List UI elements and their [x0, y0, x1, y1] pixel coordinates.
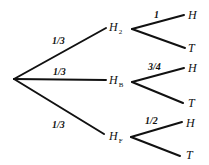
leaf-hb-h: H [187, 61, 198, 75]
edge-root-hb [14, 79, 106, 80]
prob-hf: 1/3 [52, 119, 65, 130]
node-hb: HB [108, 73, 124, 89]
leaf-hb-t: T [188, 96, 196, 110]
prob-hb-h: 3/4 [147, 61, 161, 72]
prob-hb: 1/3 [53, 66, 66, 77]
probability-tree: 1/3 1/3 1/3 H2 HB HF 1 3/4 1/2 H T H T H… [0, 0, 209, 165]
prob-hf-h: 1/2 [145, 115, 158, 126]
leaf-hf-t: T [186, 148, 194, 162]
prob-h2: 1/3 [52, 35, 65, 46]
leaf-hf-h: H [185, 116, 196, 130]
node-hf: HF [108, 129, 123, 145]
edge-h2-t [132, 29, 185, 48]
prob-h2-h: 1 [154, 9, 159, 20]
edge-hb-t [132, 82, 183, 103]
edge-hf-t [131, 137, 180, 156]
leaf-h2-t: T [188, 41, 196, 55]
node-h2: H2 [108, 20, 123, 36]
leaf-h2-h: H [187, 8, 198, 22]
